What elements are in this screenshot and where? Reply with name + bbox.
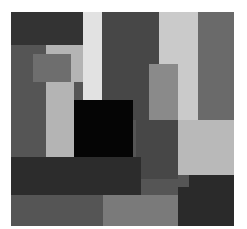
bottom-right-dark-block bbox=[189, 175, 234, 226]
right-gray-column-block bbox=[198, 12, 234, 120]
gray-rect-right-center-block bbox=[149, 64, 178, 120]
white-vertical-strip-block bbox=[83, 12, 102, 100]
bottom-center-lighter-block bbox=[103, 195, 178, 226]
black-square-block bbox=[74, 100, 133, 157]
wide-dark-band-block bbox=[11, 157, 141, 195]
light-column-left-upper-block bbox=[71, 55, 83, 82]
center-dark-gray-lower-block bbox=[136, 120, 178, 179]
light-column-left-block bbox=[46, 82, 74, 169]
small-mid-gray-square-block bbox=[33, 54, 71, 82]
bottom-right-dark-ext-block bbox=[178, 187, 189, 226]
bottom-left-gray-block bbox=[11, 195, 103, 226]
light-square-right-block bbox=[178, 120, 234, 175]
abstract-artwork bbox=[11, 12, 234, 226]
top-left-dark-block bbox=[11, 12, 83, 45]
